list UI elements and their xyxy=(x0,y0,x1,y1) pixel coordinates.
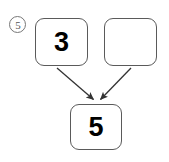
arrow-right xyxy=(101,68,132,100)
sum-box[interactable]: 5 xyxy=(70,104,122,150)
arrow-left xyxy=(57,68,94,100)
number-bond-worksheet-item: 5 3 5 xyxy=(0,0,169,162)
sum-value: 5 xyxy=(88,114,103,141)
addend-1-box[interactable]: 3 xyxy=(35,18,88,66)
item-number-value: 5 xyxy=(15,20,21,31)
addend-1-value: 3 xyxy=(54,29,69,56)
addend-2-box[interactable] xyxy=(104,18,157,66)
